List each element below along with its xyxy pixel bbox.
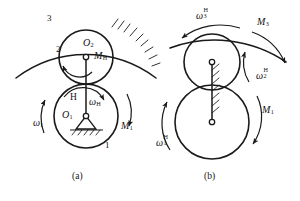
panel-b-group <box>162 25 286 159</box>
diagram-canvas <box>0 0 300 201</box>
label-planet-gear-2: 2 <box>56 45 61 54</box>
label-sun-gear-1: 1 <box>105 141 110 150</box>
label-moment-m1: M1 <box>121 121 133 132</box>
pivot-lower-b <box>209 119 214 124</box>
moment-m1-arc-b <box>253 96 262 144</box>
label-moment-m1-b: M1 <box>262 105 274 116</box>
label-moment-mh: MH <box>94 51 107 62</box>
carrier-fixed-hatching <box>212 64 219 113</box>
ring-gear-3-arc-b <box>170 40 286 62</box>
label-omega-h: ωH <box>89 97 101 108</box>
label-omega-3-h: ωH3 <box>196 8 208 21</box>
caption-b: (b) <box>204 171 215 181</box>
omega-2-h-arc <box>244 52 249 82</box>
ground-support-o1 <box>70 113 103 135</box>
label-center-o2: O2 <box>83 38 94 49</box>
label-center-o1: O1 <box>62 110 73 121</box>
label-moment-m3: M3 <box>257 17 269 28</box>
label-carrier-h: H <box>70 93 77 103</box>
label-omega-1-h: ωH1 <box>156 135 168 148</box>
moment-mh-arc <box>63 66 92 77</box>
pivot-upper-b <box>209 59 214 64</box>
omega-3-h-arc <box>182 25 240 38</box>
pivot-o2 <box>83 54 88 59</box>
planetary-gear-figure: 3 2 O2 MH H ωH O1 ω1 M1 1 ωH3 M3 ωH2 M1 … <box>0 0 300 201</box>
label-omega-2-h: ωH2 <box>256 68 268 81</box>
caption-a: (a) <box>72 171 83 181</box>
label-omega-1: ω1 <box>33 118 43 129</box>
label-ring-gear-3: 3 <box>47 14 52 23</box>
